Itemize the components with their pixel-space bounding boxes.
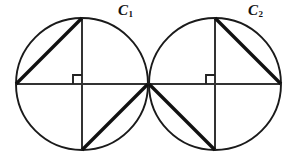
circle-label-c2-subscript: 2 (259, 9, 264, 19)
two-tangent-circles-diagram (0, 0, 295, 165)
circle-group-c2 (149, 18, 281, 150)
circle-label-c1-subscript: 1 (129, 9, 134, 19)
circle-label-c2: C2 (248, 3, 263, 18)
circle-label-c1-letter: C (118, 2, 128, 18)
circle-label-c1: C1 (118, 3, 133, 18)
circle-group-c1 (16, 18, 148, 150)
right-angle-mark-c2 (206, 75, 215, 84)
right-angle-mark-c1 (73, 75, 82, 84)
geometry-figure: C1 C2 (0, 0, 295, 165)
circle-label-c2-letter: C (248, 2, 258, 18)
